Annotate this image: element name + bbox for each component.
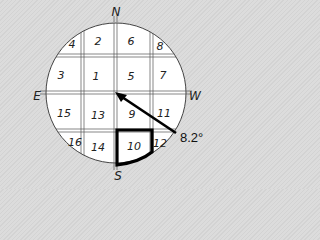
compass-south-label: S xyxy=(114,170,122,182)
cell-9: 9 xyxy=(129,109,136,120)
cell-16: 16 xyxy=(68,137,82,148)
compass-east-label: E xyxy=(33,90,41,102)
cell-4: 4 xyxy=(69,39,76,50)
cell-12: 12 xyxy=(153,138,167,149)
compass-west-label: W xyxy=(189,90,201,102)
cell-7: 7 xyxy=(160,70,167,81)
cell-8: 8 xyxy=(157,41,164,52)
angle-label: 8.2° xyxy=(180,131,203,144)
cell-2: 2 xyxy=(95,36,102,47)
cell-1: 1 xyxy=(93,71,100,82)
cell-14: 14 xyxy=(91,142,105,153)
cell-10: 10 xyxy=(127,141,141,152)
cell-6: 6 xyxy=(128,36,135,47)
cell-11: 11 xyxy=(157,108,171,119)
compass-north-label: N xyxy=(112,6,121,18)
cell-15: 15 xyxy=(57,108,71,119)
cell-3: 3 xyxy=(58,70,65,81)
cell-13: 13 xyxy=(91,110,105,121)
cell-5: 5 xyxy=(128,71,135,82)
